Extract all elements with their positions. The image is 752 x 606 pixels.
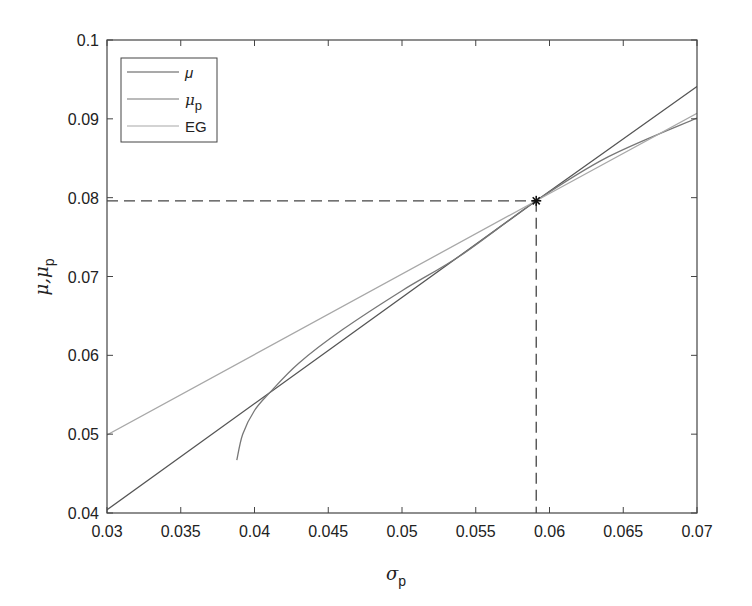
x-tick-label: 0.05 — [386, 523, 417, 540]
y-tick-label: 0.07 — [68, 269, 99, 286]
x-tick-label: 0.04 — [239, 523, 270, 540]
svg-text:μ: μ — [184, 64, 193, 81]
y-tick-label: 0.08 — [68, 190, 99, 207]
x-tick-label: 0.07 — [681, 523, 712, 540]
x-tick-label: 0.045 — [308, 523, 348, 540]
chart-canvas: 0.030.0350.040.0450.050.0550.060.0650.07… — [0, 0, 752, 606]
y-tick-label: 0.09 — [68, 111, 99, 128]
plot-lines — [107, 87, 697, 510]
y-tick-label: 0.05 — [68, 426, 99, 443]
y-tick-label: 0.06 — [68, 347, 99, 364]
legend: μ μp EG — [121, 58, 217, 142]
x-tick-label: 0.035 — [161, 523, 201, 540]
svg-text:EG: EG — [185, 118, 207, 135]
x-tick-label: 0.06 — [534, 523, 565, 540]
x-axis-label: σp — [386, 563, 406, 589]
series-line-1 — [237, 118, 697, 460]
y-tick-label: 0.1 — [77, 32, 99, 49]
x-tick-label: 0.065 — [603, 523, 643, 540]
series-line-0 — [107, 87, 697, 510]
series-line-2 — [107, 113, 697, 435]
y-axis-label: μ,μp — [31, 258, 57, 295]
x-tick-label: 0.055 — [456, 523, 496, 540]
y-tick-label: 0.04 — [68, 505, 99, 522]
optimal-point-marker — [531, 196, 541, 206]
x-tick-label: 0.03 — [91, 523, 122, 540]
